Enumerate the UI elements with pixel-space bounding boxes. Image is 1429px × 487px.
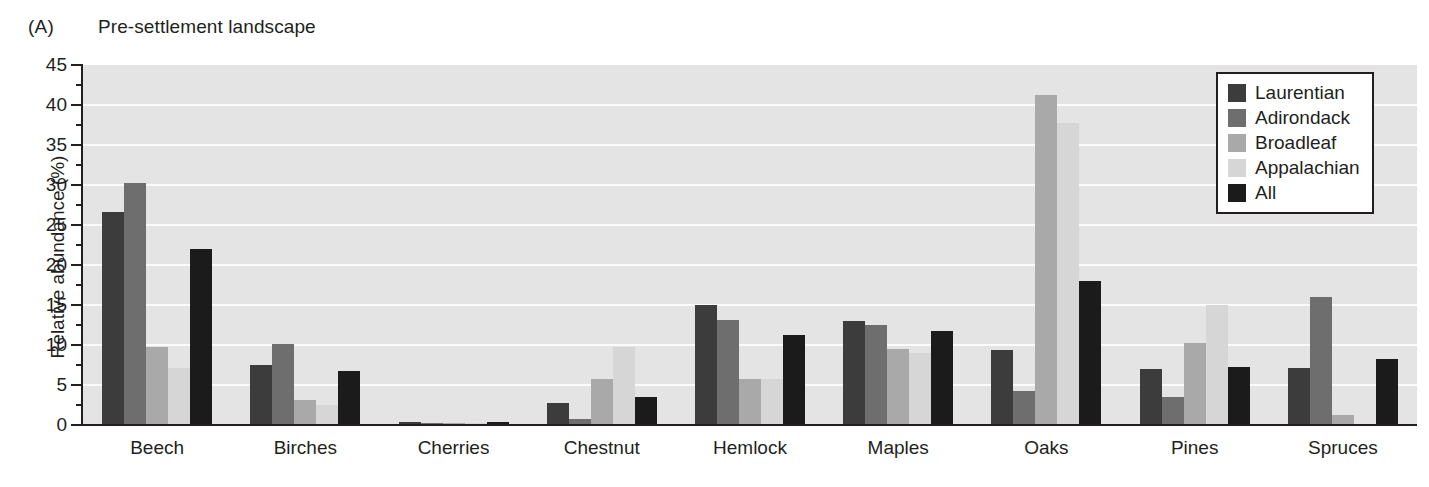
y-axis-tick-label: 30 [46, 175, 67, 194]
bar [124, 183, 146, 425]
bar-group [379, 65, 527, 425]
bar [783, 335, 805, 425]
bar [294, 400, 316, 425]
bar [695, 305, 717, 425]
bar [338, 371, 360, 425]
bar [865, 325, 887, 425]
bar [843, 321, 865, 425]
x-axis-category-label: Hemlock [676, 437, 824, 459]
legend-label: Laurentian [1255, 83, 1345, 102]
bar [1310, 297, 1332, 425]
bar [316, 405, 338, 425]
legend-label: All [1255, 183, 1276, 202]
bar [635, 397, 657, 425]
bar [613, 347, 635, 425]
x-axis-category-label: Beech [83, 437, 231, 459]
bar [1079, 281, 1101, 425]
panel-header: (A) Pre-settlement landscape [28, 16, 316, 38]
panel-letter: (A) [28, 16, 54, 38]
bar-group [231, 65, 379, 425]
bar-group [528, 65, 676, 425]
legend-label: Appalachian [1255, 158, 1360, 177]
legend-item: All [1228, 181, 1360, 204]
legend-swatch [1228, 84, 1246, 102]
y-axis-tick-label: 40 [46, 95, 67, 114]
legend-swatch [1228, 134, 1246, 152]
bar [717, 320, 739, 425]
legend-swatch [1228, 109, 1246, 127]
x-axis-spine [81, 424, 1417, 426]
bar [1228, 367, 1250, 425]
legend-item: Laurentian [1228, 81, 1360, 104]
bar [931, 331, 953, 425]
y-axis-tick-label: 5 [56, 375, 67, 394]
panel-title: Pre-settlement landscape [98, 16, 316, 38]
bar [146, 347, 168, 425]
x-axis-category-label: Maples [824, 437, 972, 459]
y-axis-tick-label: 25 [46, 215, 67, 234]
legend-swatch [1228, 159, 1246, 177]
bar [991, 350, 1013, 425]
bar [591, 379, 613, 425]
bar [1376, 359, 1398, 425]
x-axis-category-label: Spruces [1269, 437, 1417, 459]
x-axis-category-label: Pines [1121, 437, 1269, 459]
y-axis-tick-label: 20 [46, 255, 67, 274]
x-axis-category-label: Oaks [972, 437, 1120, 459]
legend-label: Adirondack [1255, 108, 1350, 127]
bar [102, 212, 124, 425]
legend-item: Appalachian [1228, 156, 1360, 179]
figure-panel-a: (A) Pre-settlement landscape Relative ab… [0, 0, 1429, 487]
x-axis-category-label: Birches [231, 437, 379, 459]
bar [168, 368, 190, 425]
bar [1057, 123, 1079, 425]
bar-group [83, 65, 231, 425]
y-axis-tick-label: 35 [46, 135, 67, 154]
bar [272, 344, 294, 425]
legend-item: Adirondack [1228, 106, 1360, 129]
bar [739, 379, 761, 425]
legend: LaurentianAdirondackBroadleafAppalachian… [1216, 72, 1374, 214]
bar [1162, 397, 1184, 425]
bar [190, 249, 212, 425]
bar [909, 353, 931, 425]
bar [1184, 343, 1206, 425]
y-axis-tick-label: 0 [56, 415, 67, 434]
bar [1288, 368, 1310, 425]
bar [547, 403, 569, 425]
bar [761, 379, 783, 425]
bar-group [972, 65, 1120, 425]
x-axis-category-label: Chestnut [528, 437, 676, 459]
bar [1140, 369, 1162, 425]
y-axis-tick-label: 45 [46, 55, 67, 74]
bar [1035, 95, 1057, 425]
bar [1206, 305, 1228, 425]
x-axis-category-label: Cherries [379, 437, 527, 459]
y-axis-tick-label: 10 [46, 335, 67, 354]
bar-group [824, 65, 972, 425]
legend-swatch [1228, 184, 1246, 202]
bar [1013, 391, 1035, 425]
legend-label: Broadleaf [1255, 133, 1336, 152]
y-axis-tick-label: 15 [46, 295, 67, 314]
bar [250, 365, 272, 425]
bar-group [676, 65, 824, 425]
bar [887, 349, 909, 425]
legend-item: Broadleaf [1228, 131, 1360, 154]
